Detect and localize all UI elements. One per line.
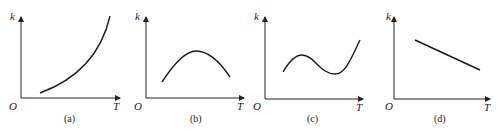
origin-label: O xyxy=(253,100,261,112)
panel-c: k O T (c) xyxy=(253,10,363,125)
y-axis-label: k xyxy=(135,10,141,22)
origin-label: O xyxy=(134,100,142,112)
curve-c xyxy=(283,40,360,74)
origin-label: O xyxy=(9,100,17,112)
caption-b: (b) xyxy=(190,113,202,125)
panel-d: k O T (d) xyxy=(385,10,491,125)
x-axis-label: T xyxy=(484,101,491,113)
figure-canvas: k O T (a) k O T (b) k O T (c) k O T (d) xyxy=(0,0,498,135)
x-axis-label: T xyxy=(113,100,120,112)
y-axis-label: k xyxy=(254,10,260,22)
curve-a xyxy=(40,16,110,93)
y-axis-label: k xyxy=(386,10,392,22)
caption-d: (d) xyxy=(434,113,446,125)
line-d xyxy=(415,40,480,70)
curve-b xyxy=(162,51,230,82)
panel-b: k O T (b) xyxy=(134,10,244,125)
x-axis-label: T xyxy=(356,101,363,113)
y-axis-label: k xyxy=(10,10,16,22)
caption-c: (c) xyxy=(307,113,318,125)
caption-a: (a) xyxy=(64,113,75,125)
x-axis-label: T xyxy=(237,100,244,112)
panel-a: k O T (a) xyxy=(9,10,120,125)
origin-label: O xyxy=(385,100,393,112)
